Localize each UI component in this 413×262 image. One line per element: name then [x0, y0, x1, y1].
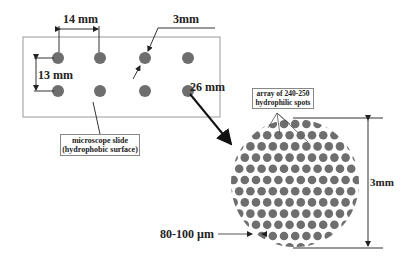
label-14mm: 14 mm	[63, 12, 98, 27]
diagram-canvas	[0, 0, 413, 262]
slide-caption-line2: (hydrophobic surface)	[62, 145, 138, 154]
slide-caption: microscope slide (hydrophobic surface)	[60, 134, 140, 156]
label-13mm: 13 mm	[38, 68, 73, 83]
label-3mm-spot: 3mm	[173, 12, 199, 27]
array-caption-line2: hydrophilic spots	[254, 99, 312, 108]
label-26mm: 26 mm	[190, 80, 225, 95]
label-spot-size: 80-100 µm	[160, 227, 214, 242]
hydrophilic-spot-array	[224, 120, 367, 252]
array-caption: array of 240-250 hydrophilic spots	[252, 88, 314, 109]
label-3mm-diameter: 3mm	[370, 176, 394, 188]
slide-caption-line1: microscope slide	[62, 136, 138, 145]
